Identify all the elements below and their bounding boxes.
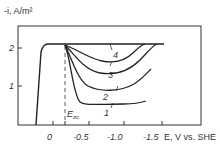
chart: 2 1 0 -0.5 -1.0 -1.5 E, V vs. SHE -i, A/…	[0, 0, 220, 147]
y-tick-label-1: 1	[9, 81, 14, 91]
curve-4-leader	[110, 44, 112, 50]
y-tick-label-2: 2	[8, 43, 14, 53]
x-tick-label-m15: -1.5	[143, 132, 160, 142]
ezc-label: Ezc	[67, 109, 79, 120]
x-axis-label: E, V vs. SHE	[164, 132, 216, 142]
curve-label-3: 3	[108, 70, 113, 80]
x-tick-label-m05: -0.5	[73, 132, 90, 142]
curve-2	[65, 45, 151, 90]
y-axis-label: -i, A/m²	[4, 6, 33, 16]
curve-label-4: 4	[113, 50, 118, 60]
curve-plateau	[36, 44, 164, 125]
curve-label-1: 1	[104, 108, 109, 118]
x-tick-label-m10: -1.0	[107, 132, 123, 142]
curve-label-2: 2	[102, 92, 108, 102]
curve-4	[65, 44, 145, 62]
x-tick-label-0: 0	[47, 132, 52, 142]
